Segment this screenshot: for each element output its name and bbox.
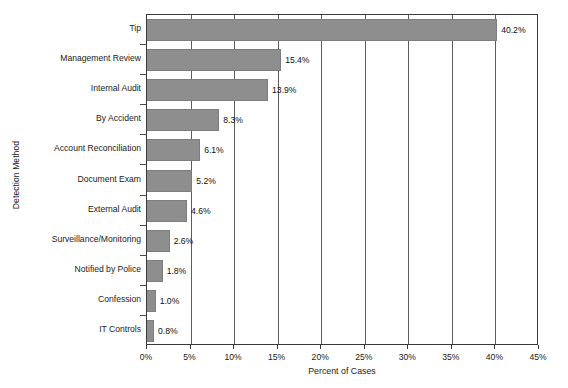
bar-row: 2.6%: [147, 230, 539, 252]
bar: [147, 320, 154, 342]
x-axis-tick: [233, 345, 234, 349]
category-label: By Accident: [0, 113, 141, 123]
bar-value-label: 4.6%: [191, 206, 211, 216]
x-axis-tick: [277, 345, 278, 349]
x-axis-tick-label: 10%: [213, 352, 253, 362]
x-axis-tick: [190, 345, 191, 349]
x-axis-tick: [451, 345, 452, 349]
y-axis-tick: [140, 134, 146, 135]
bar: [147, 49, 281, 71]
y-axis-tick: [140, 164, 146, 165]
x-axis-tick: [146, 345, 147, 349]
x-axis-tick: [364, 345, 365, 349]
y-axis-tick: [140, 104, 146, 105]
bar-value-label: 8.3%: [223, 115, 243, 125]
category-label: Account Reconciliation: [0, 143, 141, 153]
category-label: Internal Audit: [0, 83, 141, 93]
y-axis-tick: [140, 225, 146, 226]
category-label: External Audit: [0, 204, 141, 214]
x-axis-tick-label: 0%: [126, 352, 166, 362]
bar-value-label: 0.8%: [158, 326, 178, 336]
x-axis-title: Percent of Cases: [146, 366, 538, 376]
x-axis-tick-label: 40%: [474, 352, 514, 362]
bar-value-label: 1.8%: [167, 266, 187, 276]
bar: [147, 200, 187, 222]
bar-value-label: 2.6%: [174, 236, 194, 246]
bar-row: 15.4%: [147, 49, 539, 71]
bar-row: 6.1%: [147, 139, 539, 161]
y-axis-tick: [140, 44, 146, 45]
x-axis-tick: [538, 345, 539, 349]
bar: [147, 170, 192, 192]
x-axis-tick: [494, 345, 495, 349]
bar-value-label: 40.2%: [501, 25, 525, 35]
x-axis-tick-label: 15%: [257, 352, 297, 362]
x-axis-tick: [407, 345, 408, 349]
category-label: Tip: [0, 23, 141, 33]
bar: [147, 260, 163, 282]
y-axis-tick: [140, 195, 146, 196]
bar-chart: Detection Method 40.2%15.4%13.9%8.3%6.1%…: [0, 0, 568, 388]
y-axis-tick: [140, 74, 146, 75]
y-axis-tick: [140, 285, 146, 286]
bar: [147, 109, 219, 131]
bar-row: 8.3%: [147, 109, 539, 131]
plot-area: 40.2%15.4%13.9%8.3%6.1%5.2%4.6%2.6%1.8%1…: [146, 14, 538, 345]
category-label: IT Controls: [0, 324, 141, 334]
bar-row: 40.2%: [147, 19, 539, 41]
bar-value-label: 6.1%: [204, 145, 224, 155]
bar-row: 0.8%: [147, 320, 539, 342]
x-axis-tick: [320, 345, 321, 349]
x-axis-tick-label: 30%: [387, 352, 427, 362]
bar: [147, 79, 268, 101]
bar-row: 5.2%: [147, 170, 539, 192]
bar-row: 1.8%: [147, 260, 539, 282]
bar: [147, 19, 497, 41]
bar: [147, 290, 156, 312]
category-label: Confession: [0, 294, 141, 304]
x-axis-tick-label: 35%: [431, 352, 471, 362]
y-axis-tick: [140, 315, 146, 316]
bar: [147, 230, 170, 252]
x-axis-tick-label: 45%: [518, 352, 558, 362]
x-axis-tick-label: 25%: [344, 352, 384, 362]
y-axis-tick: [140, 255, 146, 256]
x-axis-tick-label: 5%: [170, 352, 210, 362]
bar-value-label: 1.0%: [160, 296, 180, 306]
category-label: Surveillance/Monitoring: [0, 234, 141, 244]
bar-value-label: 15.4%: [285, 55, 309, 65]
bar-value-label: 13.9%: [272, 85, 296, 95]
category-label: Document Exam: [0, 174, 141, 184]
bar-row: 4.6%: [147, 200, 539, 222]
category-label: Notified by Police: [0, 264, 141, 274]
bar-row: 1.0%: [147, 290, 539, 312]
category-label: Management Review: [0, 53, 141, 63]
bar-value-label: 5.2%: [196, 176, 216, 186]
bar-row: 13.9%: [147, 79, 539, 101]
x-axis-tick-label: 20%: [300, 352, 340, 362]
bar: [147, 139, 200, 161]
